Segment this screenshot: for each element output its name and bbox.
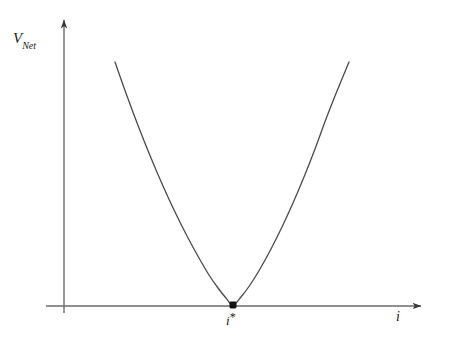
y-axis-label-subscript: Net <box>22 40 36 51</box>
minimum-point-marker <box>230 302 237 309</box>
minimum-point-label-star: * <box>230 310 236 324</box>
figure-canvas: VNet i i* <box>0 0 451 340</box>
y-axis-label: VNet <box>13 31 36 49</box>
minimum-point-label: i* <box>226 310 236 327</box>
vnet-curve <box>115 62 349 305</box>
x-axis-label: i <box>396 310 400 324</box>
x-axis-label-text: i <box>396 309 400 324</box>
plot-svg <box>0 0 451 340</box>
y-axis-label-main: V <box>13 30 22 46</box>
